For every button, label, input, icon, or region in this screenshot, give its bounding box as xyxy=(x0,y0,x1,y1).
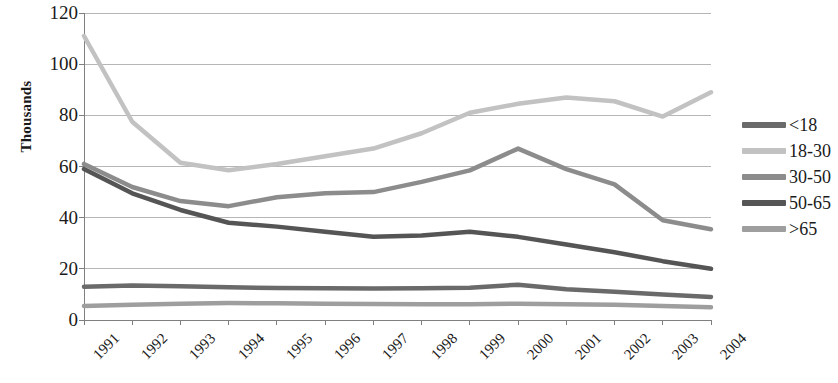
y-tick-label: 0 xyxy=(34,310,78,329)
y-tick-label: 120 xyxy=(34,3,78,22)
y-axis-tick-labels: 020406080100120 xyxy=(30,0,78,340)
legend-item[interactable]: 50-65 xyxy=(742,190,838,216)
legend-item[interactable]: >65 xyxy=(742,216,838,242)
legend-item[interactable]: 18-30 xyxy=(742,138,838,164)
y-tick-label: 20 xyxy=(34,259,78,278)
legend-swatch-icon xyxy=(742,122,786,128)
legend-swatch-icon xyxy=(742,148,786,154)
plot-area xyxy=(0,0,838,383)
series-line-18-30 xyxy=(84,36,711,170)
legend-label: >65 xyxy=(789,220,817,238)
legend-label: 50-65 xyxy=(789,194,831,212)
legend-item[interactable]: <18 xyxy=(742,112,838,138)
legend-swatch-icon xyxy=(742,200,786,206)
series-line-18 xyxy=(84,285,711,297)
legend-label: 30-50 xyxy=(789,168,831,186)
series-line-65 xyxy=(84,303,711,307)
legend-item[interactable]: 30-50 xyxy=(742,164,838,190)
axis-lines xyxy=(79,13,711,325)
legend-label: <18 xyxy=(789,116,817,134)
chart-legend: <1818-3030-5050-65>65 xyxy=(742,112,838,242)
y-tick-label: 80 xyxy=(34,105,78,124)
y-tick-label: 100 xyxy=(34,54,78,73)
y-tick-label: 40 xyxy=(34,208,78,227)
line-chart: Thousands 020406080100120 19911992199319… xyxy=(0,0,838,383)
legend-swatch-icon xyxy=(742,174,786,180)
gridlines xyxy=(84,13,711,320)
y-tick-label: 60 xyxy=(34,157,78,176)
legend-swatch-icon xyxy=(742,226,786,232)
legend-label: 18-30 xyxy=(789,142,831,160)
